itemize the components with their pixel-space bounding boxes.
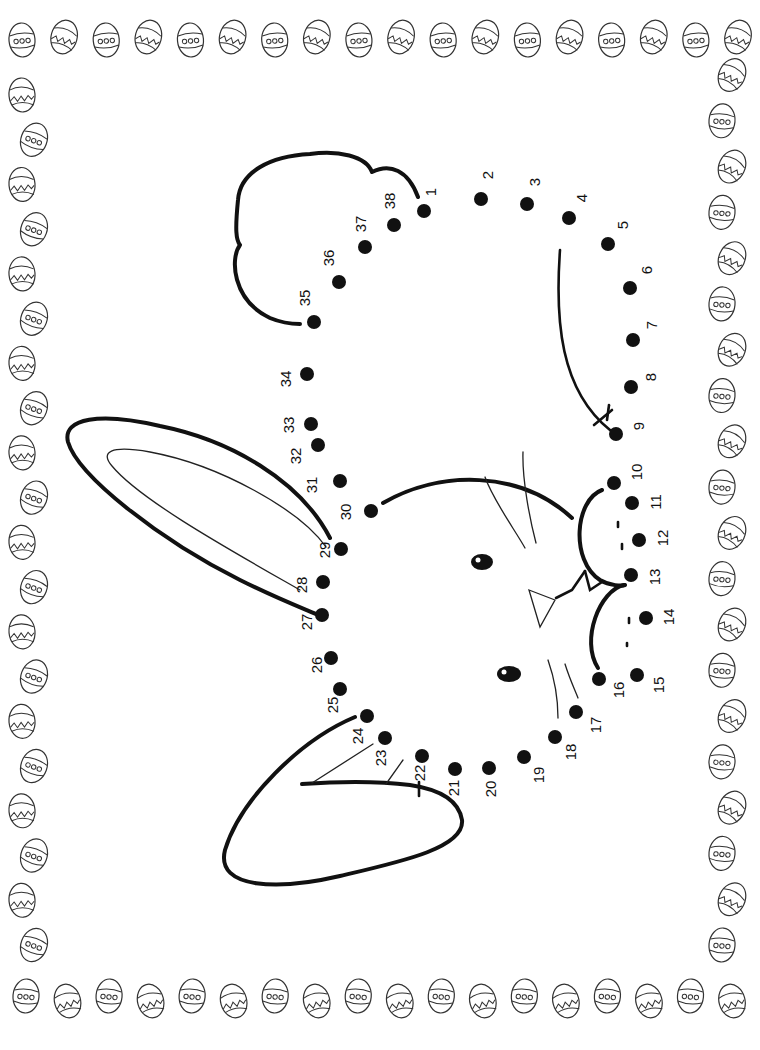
easter-egg-icon [178, 978, 207, 1014]
easter-egg-icon [8, 22, 37, 58]
lower-ear-outline [224, 717, 462, 884]
easter-egg-icon [549, 981, 583, 1021]
dot-35 [307, 315, 321, 329]
easter-egg-icon [708, 103, 737, 139]
easter-egg-icon [713, 787, 751, 829]
easter-egg-icon [708, 469, 737, 505]
easter-egg-icon [16, 656, 52, 697]
easter-egg-icon [300, 17, 334, 57]
dot-37 [358, 240, 372, 254]
mouth-left [556, 571, 585, 598]
dot-27 [315, 608, 329, 622]
easter-egg-icon [713, 146, 751, 188]
whisker-2 [523, 452, 536, 543]
dot-10 [607, 476, 621, 490]
easter-egg-icon [708, 927, 737, 963]
dot-label: 35 [296, 290, 313, 307]
head-arc [383, 480, 572, 518]
dot-34 [300, 367, 314, 381]
dot-26 [324, 651, 338, 665]
dot-22 [415, 749, 429, 763]
dot-31 [333, 474, 347, 488]
easter-egg-icon [51, 981, 85, 1021]
easter-egg-icon [131, 17, 165, 57]
dot-7 [626, 333, 640, 347]
easter-egg-icon [176, 22, 205, 58]
nose [529, 590, 555, 627]
dot-label: 13 [646, 569, 663, 586]
easter-egg-icon [468, 17, 502, 57]
easter-egg-icon [708, 561, 737, 597]
dot-16 [592, 672, 606, 686]
easter-egg-icon [16, 388, 52, 429]
dot-label: 5 [614, 221, 631, 229]
easter-egg-icon [713, 604, 751, 646]
dot-label: 2 [479, 171, 496, 179]
easter-egg-icon [8, 256, 37, 292]
dot-36 [332, 275, 346, 289]
dot-20 [482, 761, 496, 775]
easter-egg-icon [713, 512, 751, 554]
easter-egg-icon [16, 925, 52, 966]
dot-4 [562, 211, 576, 225]
easter-egg-icon [92, 22, 121, 58]
easter-egg-icon [345, 22, 374, 58]
easter-egg-icon [8, 166, 37, 202]
easter-egg-icon [8, 793, 37, 829]
easter-egg-icon [16, 119, 52, 160]
muzzle-lower [591, 585, 624, 668]
dot-label: 24 [349, 728, 366, 745]
easter-egg-icon [8, 435, 37, 471]
dot-label: 19 [530, 767, 547, 784]
easter-egg-icon [510, 978, 539, 1014]
easter-egg-icon [713, 54, 751, 96]
dot-label: 18 [562, 744, 579, 761]
easter-egg-icon [260, 22, 289, 58]
dot-label: 9 [630, 422, 647, 430]
easter-egg-icon [708, 377, 737, 413]
easter-egg-icon [16, 477, 52, 518]
dot-label: 34 [277, 371, 294, 388]
whisker-4 [565, 664, 578, 698]
dot-label: 3 [526, 178, 543, 186]
dot-label: 6 [638, 266, 655, 274]
easter-egg-icon [429, 22, 458, 58]
easter-egg-icon [8, 703, 37, 739]
dot-11 [625, 496, 639, 510]
dot-label: 7 [643, 321, 660, 329]
easter-egg-icon [95, 978, 124, 1014]
easter-egg-icon [8, 345, 37, 381]
dot-label: 10 [628, 464, 645, 481]
face-cheek-arc [558, 250, 610, 430]
dot-label: 32 [287, 448, 304, 465]
dot-label: 21 [445, 780, 462, 797]
numbered-dots: 1234567891011121314151617181920212223242… [277, 171, 677, 798]
easter-egg-icon [715, 981, 749, 1021]
dot-label: 16 [610, 682, 627, 699]
dot-13 [624, 568, 638, 582]
easter-egg-icon [16, 746, 52, 787]
dot-label: 11 [647, 494, 664, 510]
dot-label: 23 [372, 750, 389, 767]
dot-17 [569, 705, 583, 719]
dot-29 [334, 542, 348, 556]
dot-5 [601, 237, 615, 251]
easter-egg-icon [16, 209, 52, 250]
dot-label: 12 [654, 530, 671, 547]
easter-egg-icon [713, 695, 751, 737]
easter-egg-icon [713, 420, 751, 462]
eye-lower [497, 666, 521, 682]
dot-14 [639, 611, 653, 625]
easter-egg-icon [16, 567, 52, 608]
easter-egg-icon [427, 978, 456, 1014]
dot-label: 26 [308, 657, 325, 674]
easter-egg-icon [8, 524, 37, 560]
dot-9 [609, 427, 623, 441]
dot-33 [304, 417, 318, 431]
easter-egg-icon [217, 981, 251, 1021]
dot-8 [624, 380, 638, 394]
easter-egg-icon [593, 978, 622, 1014]
dot-label: 14 [660, 609, 677, 626]
dot-label: 22 [411, 765, 428, 782]
easter-egg-icon [713, 237, 751, 279]
